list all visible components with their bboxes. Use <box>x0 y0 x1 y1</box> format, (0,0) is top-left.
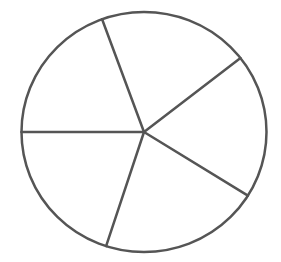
pie-chart <box>0 0 281 262</box>
